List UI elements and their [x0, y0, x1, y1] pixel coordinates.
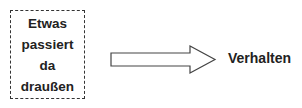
behavior-label: Verhalten [228, 50, 291, 66]
